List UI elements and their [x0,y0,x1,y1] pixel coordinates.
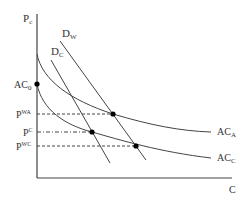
pc-label: PC [23,127,33,138]
diagram-canvas: Pc C DW DC ACA ACC AC0 PWA PC PWC [0,0,249,200]
demand-w-label: DW [62,27,77,41]
demand-c-line [51,60,110,163]
pwc-equilibrium-point [133,143,138,148]
ac-c-curve [37,84,211,158]
pwa-equilibrium-point [110,111,115,116]
ac-a-label: ACA [217,126,236,139]
demand-c-label: DC [51,45,64,59]
pwa-label: PWA [16,109,32,120]
ac0-point [34,81,39,86]
y-axis-label: Pc [23,12,32,26]
pwc-label: PWC [16,141,31,152]
x-axis-label: C [229,184,236,195]
diagram: Pc C DW DC ACA ACC AC0 PWA PC PWC [0,0,249,200]
ac0-label: AC0 [14,79,32,92]
demand-w-line [60,41,146,160]
pc-equilibrium-point [89,129,94,134]
ac-c-label: ACC [217,152,236,165]
